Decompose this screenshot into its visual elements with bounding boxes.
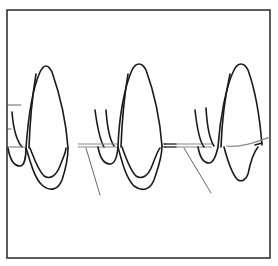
tooth-panel-1 xyxy=(8,66,68,189)
gingiva-curve-inner xyxy=(106,110,114,146)
tooth-panel-2 xyxy=(78,64,176,195)
gingiva-curve xyxy=(95,110,104,147)
edge-tick xyxy=(255,143,262,145)
socket-curve xyxy=(198,147,218,163)
root-outline xyxy=(224,147,258,181)
socket-curve xyxy=(98,147,118,164)
pulp-outline xyxy=(122,147,160,178)
socket-curve xyxy=(8,148,26,166)
gingiva-curve xyxy=(195,110,204,147)
diagram-canvas xyxy=(0,0,278,266)
reference-curve xyxy=(226,137,270,146)
figure-frame xyxy=(7,10,270,258)
leader-line xyxy=(184,148,211,193)
leader-line xyxy=(86,148,100,195)
gingiva-curve-inner xyxy=(206,108,214,146)
tooth-panel-3 xyxy=(166,64,270,193)
crown-outline xyxy=(118,64,162,147)
diagram-figure xyxy=(0,0,278,266)
gingiva-curve xyxy=(12,112,22,147)
pulp-outline xyxy=(30,148,66,178)
